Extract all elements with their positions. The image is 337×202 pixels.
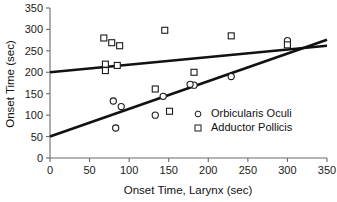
x-tick-label: 0 [47,164,53,176]
y-tick-label: 150 [25,88,43,100]
data-point-square [191,69,197,75]
data-point-square [101,35,107,41]
fit-line [50,46,327,73]
y-tick-label: 250 [25,45,43,57]
data-point-square [114,62,120,68]
x-tick-label: 150 [160,164,178,176]
data-point-circle [110,98,116,104]
data-point-square [102,68,108,74]
y-tick-label: 300 [25,23,43,35]
data-point-square [117,43,123,49]
data-point-square [152,86,158,92]
y-tick-label: 100 [25,109,43,121]
data-point-square [284,42,290,48]
legend-entry-label: Orbicularis Oculi [211,107,292,119]
data-point-square [109,40,115,46]
plot-area: 0501001502002503003500501001502002503003… [0,0,337,202]
data-point-square [228,33,234,39]
x-tick-label: 100 [120,164,138,176]
y-tick-label: 350 [25,2,43,14]
legend: Orbicularis OculiAdductor Pollicis [195,107,293,133]
x-tick-label: 300 [278,164,296,176]
axis-tick-labels: 0501001502002503003500501001502002503003… [25,2,337,176]
x-tick-label: 250 [239,164,257,176]
x-tick-label: 200 [199,164,217,176]
y-tick-label: 50 [31,131,43,143]
circle-marker-icon [195,111,201,117]
x-axis-label: Onset Time, Larynx (sec) [124,184,253,196]
data-point-circle [187,81,193,87]
data-point-circle [160,93,166,99]
scatter-chart: 0501001502002503003500501001502002503003… [0,0,337,202]
data-point-square [167,108,173,114]
square-marker-icon [195,125,201,131]
data-point-square [162,27,168,33]
data-point-circle [113,125,119,131]
y-axis-label: Onset Time (sec) [4,40,16,128]
data-point-circle [228,73,234,79]
data-point-circle [118,103,124,109]
x-tick-label: 50 [83,164,95,176]
legend-entry-label: Adductor Pollicis [211,121,293,133]
y-tick-label: 200 [25,66,43,78]
x-tick-label: 350 [318,164,336,176]
y-tick-label: 0 [37,152,43,164]
data-point-circle [152,112,158,118]
axis-ticks [46,8,327,162]
data-point-square [102,61,108,67]
